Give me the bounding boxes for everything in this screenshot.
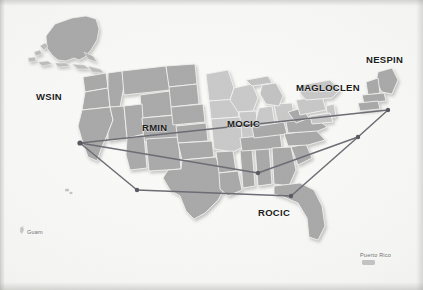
node-rocic bbox=[289, 194, 293, 198]
region-label-rocic: ROCIC bbox=[258, 207, 290, 218]
region-label-wsin: WSIN bbox=[36, 91, 62, 102]
region-label-rmin: RMIN bbox=[142, 122, 167, 133]
page-edge-left bbox=[0, 0, 5, 290]
connection-magloclen-nespin bbox=[358, 110, 388, 137]
region-shape-nespin bbox=[358, 68, 398, 111]
puerto-rico-landmass bbox=[362, 260, 375, 265]
node-magloclen bbox=[356, 135, 360, 139]
hawaii-landmass bbox=[65, 189, 73, 195]
region-label-nespin: NESPIN bbox=[366, 54, 403, 65]
page-edge-right bbox=[416, 0, 423, 290]
node-wsin bbox=[77, 140, 82, 145]
page-edge-top bbox=[0, 0, 423, 6]
inset-label-guam: Guam bbox=[27, 229, 43, 235]
page-edge-bottom bbox=[0, 282, 423, 290]
node-rmin bbox=[135, 188, 139, 192]
us-map-graphic bbox=[0, 0, 423, 290]
node-nespin bbox=[386, 108, 390, 112]
inset-label-puerto-rico: Puerto Rico bbox=[360, 252, 391, 258]
region-label-magloclen: MAGLOCLEN bbox=[296, 82, 360, 93]
alaska-landmass bbox=[28, 16, 104, 73]
map-screenshot: WSIN RMIN MOCIC ROCIC MAGLOCLEN NESPIN G… bbox=[0, 0, 423, 290]
guam-landmass bbox=[20, 226, 24, 234]
region-label-mocic: MOCIC bbox=[227, 118, 260, 129]
node-mocic bbox=[256, 171, 260, 175]
